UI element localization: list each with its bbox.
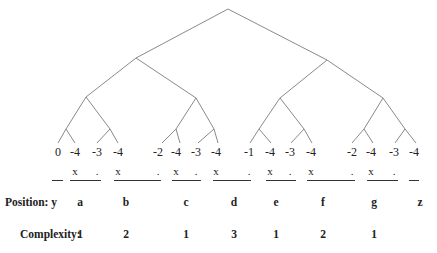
tree-edge (364, 129, 373, 143)
complexity-value: 3 (231, 228, 237, 240)
symbol: x (72, 165, 78, 177)
complexity-value: 1 (77, 228, 83, 240)
leaf-value: -4 (366, 146, 376, 158)
symbol: . (248, 165, 251, 177)
position-label: e (273, 196, 278, 208)
symbol: x (115, 165, 121, 177)
tree-edge (327, 60, 383, 98)
constituent-underline (266, 180, 296, 181)
tree-edge (86, 58, 136, 97)
leaf-value: -3 (389, 146, 399, 158)
tree-edge (198, 129, 214, 143)
symbol: x (267, 165, 273, 177)
leaf-value: -3 (92, 146, 102, 158)
symbol: . (393, 165, 396, 177)
leaf-value: -4 (306, 146, 316, 158)
leaf-value: -1 (244, 146, 254, 158)
tree-edge (228, 9, 327, 60)
position-label: g (371, 196, 377, 208)
tree-edge (383, 98, 405, 129)
tree-edge (214, 129, 218, 143)
tree-edge (304, 129, 312, 143)
tree-edge (110, 129, 118, 143)
tree-edge (136, 9, 228, 58)
constituent-underline (409, 180, 419, 181)
position-label: z (417, 196, 422, 208)
leaf-value: -2 (153, 146, 163, 158)
tree-edge (291, 129, 304, 143)
leaf-value: -4 (265, 146, 275, 158)
leaf-value: -4 (211, 146, 221, 158)
constituent-underline (52, 180, 63, 181)
symbol: . (157, 165, 160, 177)
position-label: y (51, 196, 57, 208)
leaf-value: -4 (70, 146, 80, 158)
leaf-value: -4 (113, 146, 123, 158)
tree-edge (66, 97, 86, 129)
constituent-underline (213, 180, 251, 181)
leaf-value: -3 (285, 146, 295, 158)
symbol: . (289, 165, 292, 177)
tree-edge (162, 129, 176, 143)
tree-edge (405, 129, 416, 143)
tree-edge (58, 129, 66, 143)
leaf-value: -4 (409, 146, 419, 158)
tree-edge (395, 129, 405, 143)
position-label: b (123, 196, 129, 208)
constituent-underline (70, 180, 101, 181)
leaf-value: -4 (171, 146, 181, 158)
position-label: c (183, 196, 188, 208)
constituent-underline (307, 180, 355, 181)
tree-diagram: 0-4-3-4-2-4-3-4-1-4-3-4-2-4-3-4 x.x.x.x.… (0, 0, 437, 253)
tree-edge (259, 98, 280, 129)
tree-edge (259, 129, 271, 143)
tree-edge (176, 129, 180, 143)
symbol: x (173, 165, 179, 177)
tree-edge (352, 129, 364, 143)
tree-edge (250, 129, 259, 143)
leaf-value: -2 (347, 146, 357, 158)
symbol: x (308, 165, 314, 177)
symbol: x (368, 165, 374, 177)
tree-edge (97, 129, 110, 143)
constituent-underline (172, 180, 201, 181)
position-label: a (77, 196, 83, 208)
tree-edge (176, 98, 196, 129)
tree-branches (0, 0, 437, 253)
complexity-row-label: Complexity: (20, 228, 81, 240)
symbol: . (351, 165, 354, 177)
position-label: f (321, 196, 325, 208)
complexity-value: 1 (183, 228, 189, 240)
tree-edge (86, 97, 110, 129)
tree-edge (280, 60, 327, 98)
constituent-underline (367, 180, 398, 181)
complexity-value: 2 (123, 228, 129, 240)
complexity-value: 2 (320, 228, 326, 240)
complexity-value: 1 (273, 228, 279, 240)
tree-edge (66, 129, 75, 143)
tree-edge (280, 98, 304, 129)
tree-edge (196, 98, 214, 129)
position-label: d (231, 196, 237, 208)
symbol: . (96, 165, 99, 177)
position-row-label: Position: (5, 196, 48, 208)
symbol: x (213, 165, 219, 177)
symbol: . (195, 165, 198, 177)
leaf-value: 0 (55, 146, 61, 158)
complexity-value: 1 (371, 228, 377, 240)
constituent-underline (114, 180, 161, 181)
tree-edge (364, 98, 383, 129)
leaf-value: -3 (191, 146, 201, 158)
tree-edge (136, 58, 196, 98)
